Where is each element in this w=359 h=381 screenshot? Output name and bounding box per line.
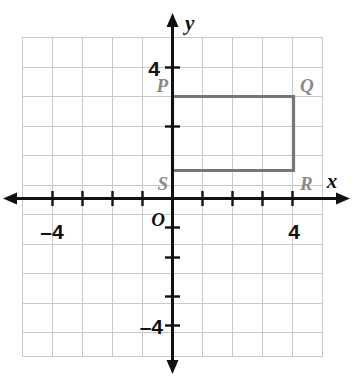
vertex-label-q: Q	[300, 75, 314, 96]
coordinate-plane-svg: y x –4 4 4 –4 O P Q R S	[0, 0, 359, 381]
y-tick-label-neg4: –4	[140, 315, 164, 338]
x-axis-label: x	[326, 169, 338, 193]
coordinate-plane-figure: y x –4 4 4 –4 O P Q R S	[0, 0, 359, 381]
y-axis-down-arrow-icon	[167, 360, 179, 374]
x-tick-label-pos4: 4	[288, 220, 300, 243]
x-axis-left-arrow-icon	[3, 193, 17, 205]
y-axis-label: y	[182, 11, 195, 35]
vertex-label-p: P	[155, 75, 168, 96]
vertex-label-s: S	[157, 173, 168, 194]
x-tick-label-neg4: –4	[40, 220, 64, 243]
x-axis-right-arrow-icon	[336, 193, 350, 205]
vertex-label-r: R	[299, 173, 313, 194]
origin-label: O	[151, 209, 165, 230]
y-axis-up-arrow-icon	[167, 13, 179, 27]
